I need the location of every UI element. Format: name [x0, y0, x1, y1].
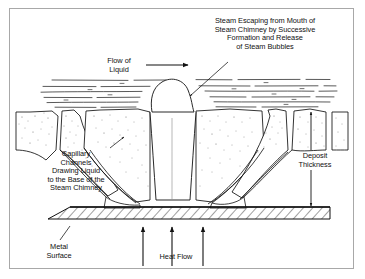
- deposit-column: [292, 109, 326, 151]
- deposit-column: [332, 112, 348, 150]
- annotation-capillary-channels: Capillary Channels Drawing Liquid to the…: [28, 150, 124, 193]
- leader-metal-surface: [60, 226, 70, 240]
- steam-chimney: [150, 112, 196, 200]
- metal-surface: [48, 207, 330, 219]
- annotation-steam-escaping: Steam Escaping from Mouth of Steam Chimn…: [196, 17, 334, 51]
- steam-bubble: [151, 79, 194, 112]
- figure-root: Steam Escaping from Mouth of Steam Chimn…: [0, 0, 365, 279]
- annotation-heat-flow: Heat Flow: [150, 253, 202, 262]
- annotation-flow-of-liquid: Flow of Liquid: [95, 57, 143, 74]
- annotation-deposit-thickness: Deposit Thickness: [286, 152, 344, 169]
- annotation-metal-surface: Metal Surface: [34, 243, 84, 260]
